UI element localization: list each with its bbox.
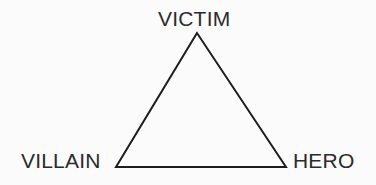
drama-triangle-diagram: VICTIM VILLAIN HERO [0, 0, 376, 185]
node-label-hero: HERO [293, 150, 354, 171]
node-label-villain: VILLAIN [21, 150, 101, 171]
node-label-victim: VICTIM [158, 8, 230, 29]
triangle-outline [116, 33, 286, 167]
